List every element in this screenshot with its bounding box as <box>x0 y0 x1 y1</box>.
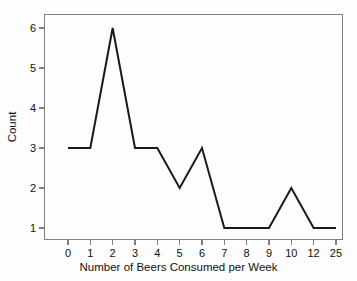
x-tick-mark <box>201 240 203 245</box>
y-axis-title: Count <box>6 112 18 143</box>
y-tick-label: 1 <box>18 222 36 234</box>
x-tick-mark <box>179 240 181 245</box>
x-tick-mark <box>134 240 136 245</box>
chart-container: 123456 0123456789101225 Count Number of … <box>0 0 357 281</box>
x-tick-mark <box>224 240 226 245</box>
x-tick-label: 7 <box>221 247 227 259</box>
x-tick-label: 9 <box>266 247 272 259</box>
x-tick-label: 6 <box>199 247 205 259</box>
y-tick-label: 6 <box>18 22 36 34</box>
x-tick-mark <box>335 240 337 245</box>
x-tick-label: 5 <box>177 247 183 259</box>
y-tick-label: 2 <box>18 182 36 194</box>
x-tick-mark <box>268 240 270 245</box>
x-axis-title: Number of Beers Consumed per Week <box>0 261 357 273</box>
x-tick-label: 3 <box>132 247 138 259</box>
x-tick-mark <box>291 240 293 245</box>
x-tick-label: 2 <box>110 247 116 259</box>
y-tick-mark <box>39 227 44 229</box>
x-tick-label: 8 <box>244 247 250 259</box>
x-tick-mark <box>157 240 159 245</box>
x-tick-mark <box>90 240 92 245</box>
y-tick-mark <box>39 67 44 69</box>
x-tick-mark <box>313 240 315 245</box>
x-tick-label: 25 <box>330 247 342 259</box>
y-tick-mark <box>39 27 44 29</box>
plot-area-frame <box>44 14 343 240</box>
x-tick-label: 12 <box>308 247 320 259</box>
x-tick-mark <box>246 240 248 245</box>
x-tick-label: 1 <box>87 247 93 259</box>
x-tick-label: 4 <box>154 247 160 259</box>
y-tick-label: 4 <box>18 102 36 114</box>
y-tick-mark <box>39 107 44 109</box>
x-tick-mark <box>67 240 69 245</box>
x-tick-label: 10 <box>285 247 297 259</box>
x-tick-label: 0 <box>65 247 71 259</box>
y-tick-label: 3 <box>18 142 36 154</box>
x-tick-mark <box>112 240 114 245</box>
y-tick-mark <box>39 147 44 149</box>
y-tick-label: 5 <box>18 62 36 74</box>
y-tick-mark <box>39 187 44 189</box>
